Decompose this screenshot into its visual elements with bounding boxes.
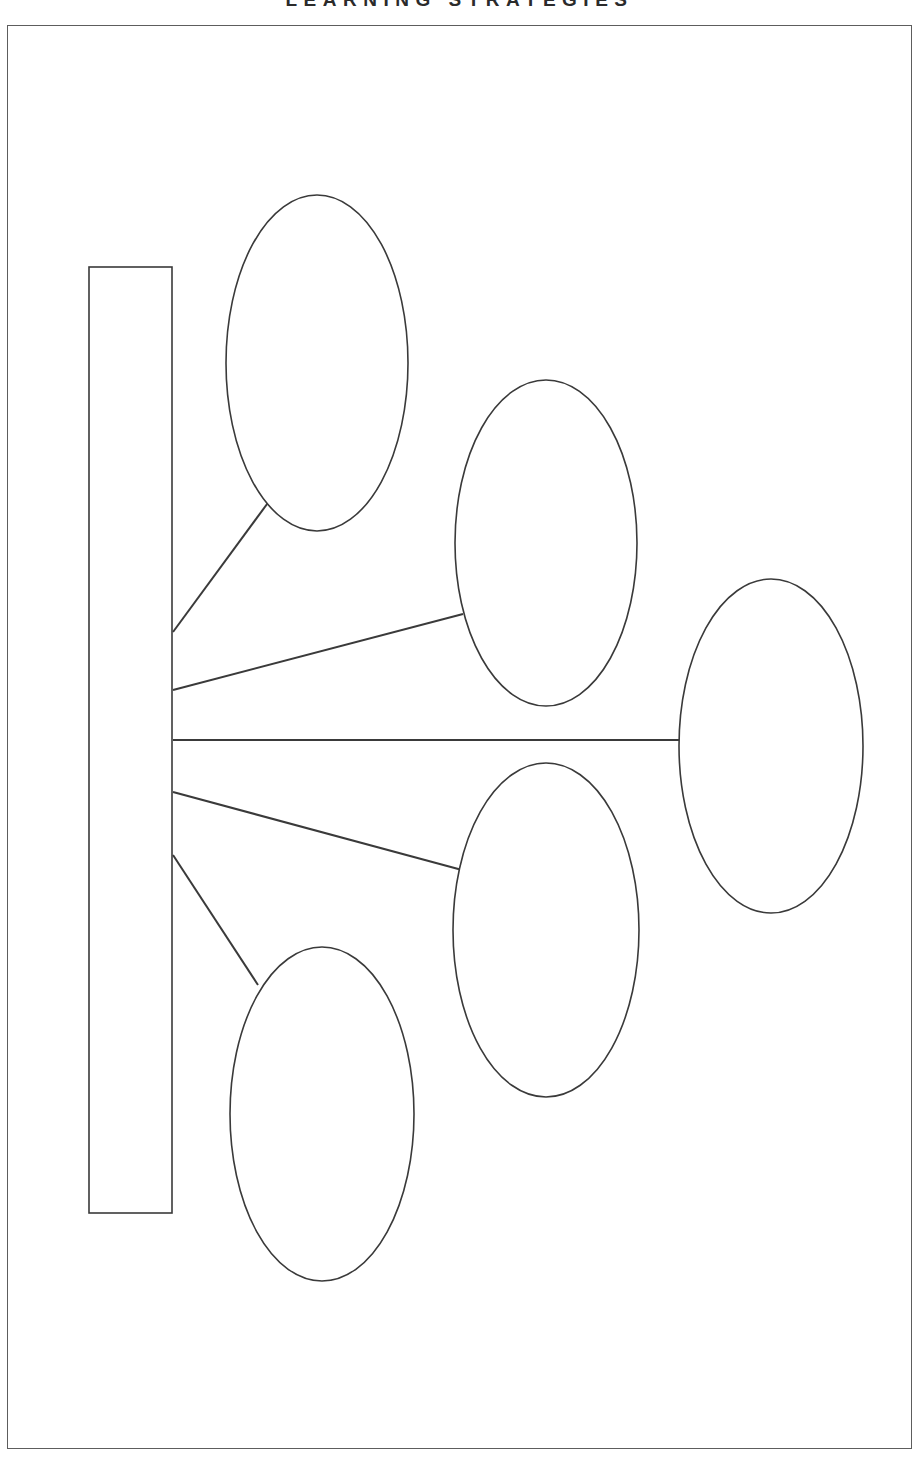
central-node[interactable] [89, 267, 172, 1213]
branch-node-1[interactable] [226, 195, 408, 531]
central-node-rectangle[interactable] [89, 267, 172, 1213]
page-canvas: LEARNING STRATEGIES [0, 0, 919, 1458]
branch-node-4-ellipse[interactable] [453, 763, 639, 1097]
connector-line-4[interactable] [173, 792, 462, 870]
connector-line-1[interactable] [173, 500, 270, 632]
connector-line-5[interactable] [173, 855, 258, 985]
branch-node-3-ellipse[interactable] [679, 579, 863, 913]
branch-node-2-ellipse[interactable] [455, 380, 637, 706]
branch-node-1-ellipse[interactable] [226, 195, 408, 531]
branch-node-5[interactable] [230, 947, 414, 1281]
connector-line-2[interactable] [173, 614, 463, 690]
branch-node-5-ellipse[interactable] [230, 947, 414, 1281]
branch-node-3[interactable] [679, 579, 863, 913]
branch-node-4[interactable] [453, 763, 639, 1097]
concept-map-diagram [0, 0, 919, 1458]
branch-node-2[interactable] [455, 380, 637, 706]
